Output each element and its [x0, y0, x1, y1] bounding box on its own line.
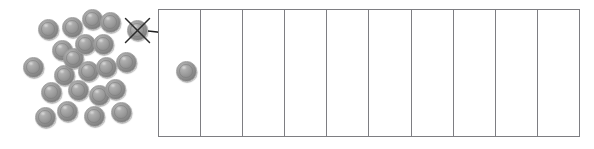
- sphere-inner-ring: [179, 64, 193, 78]
- ten-frame-grid: [158, 9, 580, 137]
- grid-cell-10[interactable]: [538, 10, 579, 136]
- grid-cell-3[interactable]: [243, 10, 285, 136]
- grid-cell-5[interactable]: [327, 10, 369, 136]
- grid-cell-2[interactable]: [201, 10, 243, 136]
- grid-cell-7[interactable]: [412, 10, 454, 136]
- grid-cell-6[interactable]: [369, 10, 411, 136]
- grid-cell-9[interactable]: [496, 10, 538, 136]
- diagram-canvas: [0, 0, 594, 149]
- placed-counter-sphere[interactable]: [176, 61, 197, 82]
- grid-cell-8[interactable]: [454, 10, 496, 136]
- grid-cell-4[interactable]: [285, 10, 327, 136]
